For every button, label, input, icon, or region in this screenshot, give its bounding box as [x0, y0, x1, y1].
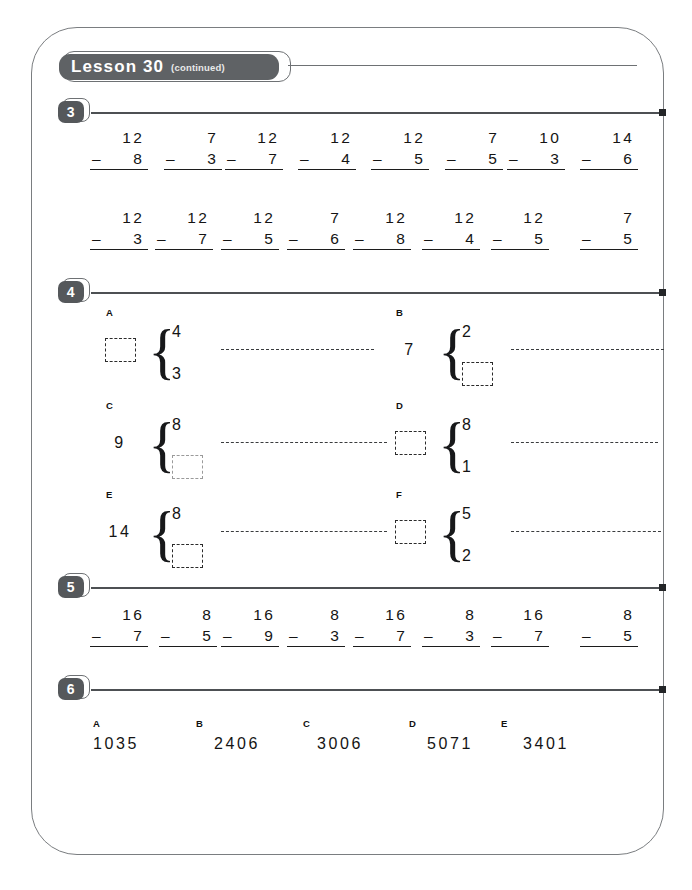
subtrahend: 3: [465, 627, 476, 644]
subtrahend: 7: [268, 150, 279, 167]
minus-sign: –: [424, 228, 435, 249]
part-whole-item-c: C 9 { 8: [88, 400, 378, 486]
answer-line[interactable]: [221, 531, 387, 532]
part-top: 4: [172, 319, 218, 345]
minus-sign: –: [582, 228, 593, 249]
item-value: 1035: [93, 735, 139, 753]
subtrahend: 5: [623, 230, 634, 247]
dashed-answer-box[interactable]: [105, 338, 136, 362]
dashed-answer-box[interactable]: [462, 362, 493, 386]
answer-line[interactable]: [221, 442, 387, 443]
problem: 8 –5: [159, 604, 217, 647]
part-bottom: 2: [462, 543, 508, 569]
dashed-answer-box[interactable]: [172, 544, 203, 568]
subtrahend-line: –8: [353, 228, 411, 250]
minus-sign: –: [223, 228, 234, 249]
problem: 12 –8: [90, 127, 148, 170]
subtrahend: 5: [414, 150, 425, 167]
subtrahend-line: –3: [90, 228, 148, 250]
subtrahend: 3: [207, 150, 218, 167]
problem-row-5-1: 16 –7 8 –5 16 –9 8 –3 16 –7 8 –3 16 –7 8: [70, 604, 640, 656]
subtrahend: 6: [623, 150, 634, 167]
subtrahend-line: –5: [159, 625, 217, 647]
subtrahend-line: –5: [445, 148, 503, 170]
brace-icon: {: [438, 408, 460, 480]
problem: 12 –4: [422, 207, 480, 250]
part-top: 5: [462, 501, 508, 527]
subtrahend: 7: [133, 627, 144, 644]
minuend: 8: [159, 604, 217, 625]
problem: 10 –3: [507, 127, 565, 170]
minuend: 8: [422, 604, 480, 625]
part-whole-item-b: B 7 { 2: [378, 307, 668, 393]
item-letter: B: [396, 307, 403, 318]
item-letter: F: [396, 489, 402, 500]
total-answer-box[interactable]: [94, 337, 146, 363]
minuend: 7: [287, 207, 345, 228]
part-top: 8: [172, 501, 218, 527]
subtrahend-line: –5: [371, 148, 429, 170]
problem: 12 –3: [90, 207, 148, 250]
section-badge-6-number: 6: [58, 678, 84, 700]
minuend: 16: [353, 604, 411, 625]
subtrahend: 5: [264, 230, 275, 247]
lesson-continued-label: (continued): [171, 62, 225, 73]
minuend: 12: [225, 127, 283, 148]
section-rule-5: [91, 587, 662, 589]
minus-sign: –: [223, 625, 234, 646]
minus-sign: –: [289, 625, 300, 646]
part-bottom: 3: [172, 361, 218, 387]
part-whole-item-d: D { 8 1: [378, 400, 668, 486]
minus-sign: –: [300, 148, 311, 169]
subtrahend-line: –5: [580, 625, 638, 647]
problem: 7 –5: [445, 127, 503, 170]
total-value: 9: [94, 430, 146, 456]
problem: 7 –3: [164, 127, 222, 170]
problem: 12 –7: [155, 207, 213, 250]
part-bottom-answer-box[interactable]: [172, 543, 218, 569]
problem: 16 –7: [90, 604, 148, 647]
answer-line[interactable]: [511, 531, 661, 532]
dashed-answer-box[interactable]: [395, 520, 426, 544]
subtrahend: 7: [396, 627, 407, 644]
subtrahend: 6: [330, 230, 341, 247]
minus-sign: –: [157, 228, 168, 249]
minuend: 14: [580, 127, 638, 148]
minuend: 12: [90, 127, 148, 148]
lesson-banner-rule: [288, 65, 637, 66]
section-rule-6-endcap: [659, 686, 666, 693]
dashed-answer-box[interactable]: [395, 431, 426, 455]
problem: 7 –5: [580, 207, 638, 250]
answer-line[interactable]: [511, 349, 664, 350]
minuend: 12: [371, 127, 429, 148]
total-answer-box[interactable]: [384, 519, 436, 545]
subtrahend: 8: [133, 150, 144, 167]
section-badge-3-number: 3: [58, 101, 84, 123]
subtrahend: 3: [133, 230, 144, 247]
item-value: 2406: [214, 735, 260, 753]
minus-sign: –: [509, 148, 520, 169]
answer-line[interactable]: [221, 349, 374, 350]
lesson-banner: Lesson 30 (continued): [59, 51, 291, 82]
part-bottom-answer-box[interactable]: [172, 454, 218, 480]
dashed-answer-box[interactable]: [172, 455, 203, 479]
subtrahend: 3: [330, 627, 341, 644]
minuend: 16: [491, 604, 549, 625]
brace-icon: {: [148, 408, 170, 480]
total-value: 14: [94, 519, 146, 545]
minus-sign: –: [92, 228, 103, 249]
answer-line[interactable]: [511, 442, 658, 443]
subtrahend: 3: [550, 150, 561, 167]
minus-sign: –: [582, 148, 593, 169]
subtrahend: 5: [488, 150, 499, 167]
minuend: 12: [298, 127, 356, 148]
part-bottom-answer-box[interactable]: [462, 361, 508, 387]
section-badge-5-number: 5: [58, 576, 84, 598]
total-answer-box[interactable]: [384, 430, 436, 456]
item-value: 3401: [523, 735, 569, 753]
problem-row-3-1: 12 –8 7 –3 12 –7 12 –4 12 –5 7 –5 10 –3 …: [70, 127, 640, 179]
problem: 7 –6: [287, 207, 345, 250]
minus-sign: –: [582, 625, 593, 646]
subtrahend-line: –3: [287, 625, 345, 647]
part-whole-item-f: F { 5 2: [378, 489, 668, 575]
